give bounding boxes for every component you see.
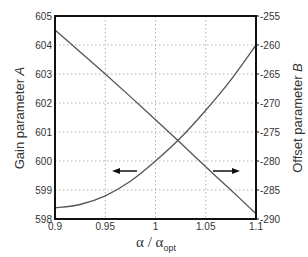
grid-lines [55, 16, 256, 219]
y-axis-right-ticks: -290-285-280-275-270-265-260-255 [256, 11, 280, 225]
x-axis-ticks: 0.90.9511.051.1 [48, 221, 263, 232]
y-tick-label-right: -285 [260, 185, 280, 196]
x-tick-label: 0.95 [96, 221, 116, 232]
y-tick-label-right: -255 [260, 11, 280, 22]
x-tick-label: 1.05 [196, 221, 216, 232]
y-axis-left-label: Gain parameter A [12, 67, 27, 170]
x-tick-label: 1 [153, 221, 159, 232]
y-axis-left-ticks: 598599600601602603604605 [35, 11, 52, 225]
x-axis-label: α / αopt [136, 234, 176, 253]
y-tick-label-left: 600 [35, 156, 52, 167]
x-tick-label: 0.9 [48, 221, 62, 232]
y-tick-label-left: 603 [35, 69, 52, 80]
y-tick-label-right: -265 [260, 69, 280, 80]
y-tick-label-left: 604 [35, 40, 52, 51]
left-arrow-icon [112, 168, 137, 174]
y-tick-label-right: -280 [260, 156, 280, 167]
chart: 598599600601602603604605 -290-285-280-27… [0, 0, 308, 257]
y-tick-label-right: -290 [260, 214, 280, 225]
y-tick-label-left: 601 [35, 127, 52, 138]
y-tick-label-right: -270 [260, 98, 280, 109]
y-tick-label-left: 605 [35, 11, 52, 22]
y-tick-label-right: -260 [260, 40, 280, 51]
x-tick-label: 1.1 [249, 221, 263, 232]
y-tick-label-left: 599 [35, 185, 52, 196]
y-axis-right-label: Offset parameter B [290, 63, 305, 173]
right-arrow-icon [213, 168, 240, 174]
y-tick-label-left: 602 [35, 98, 52, 109]
y-tick-label-right: -275 [260, 127, 280, 138]
